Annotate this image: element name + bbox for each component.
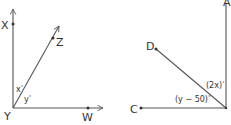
- point-w: [87, 107, 90, 110]
- point-c: [140, 107, 143, 110]
- angle-label-x: x°: [16, 84, 24, 94]
- label-d: D: [146, 40, 154, 53]
- label-c: C: [130, 103, 138, 116]
- label-a: A: [223, 0, 231, 9]
- vertex-right: [225, 107, 227, 109]
- point-d: [155, 48, 158, 51]
- angle-y-minus-50-value: (y − 50): [175, 95, 208, 104]
- angle-label-y-minus-50: (y − 50)°: [175, 94, 211, 104]
- angle-diagram: X Z W Y x° y° A D C (2x)° (y − 50)°: [0, 0, 231, 125]
- angle-label-2x: (2x)°: [206, 80, 225, 90]
- degree-symbol: °: [222, 80, 225, 86]
- label-w: W: [82, 111, 93, 124]
- point-z: [52, 37, 55, 40]
- label-x: X: [1, 19, 9, 32]
- degree-symbol: °: [29, 94, 32, 100]
- angle-label-y: y°: [24, 94, 32, 104]
- point-x: [12, 23, 15, 26]
- label-z: Z: [56, 36, 64, 49]
- right-figure: A D C (2x)° (y − 50)°: [130, 0, 231, 116]
- angle-2x-value: (2x): [206, 81, 222, 90]
- label-y: Y: [3, 110, 11, 123]
- left-figure: X Z W Y x° y°: [1, 9, 103, 124]
